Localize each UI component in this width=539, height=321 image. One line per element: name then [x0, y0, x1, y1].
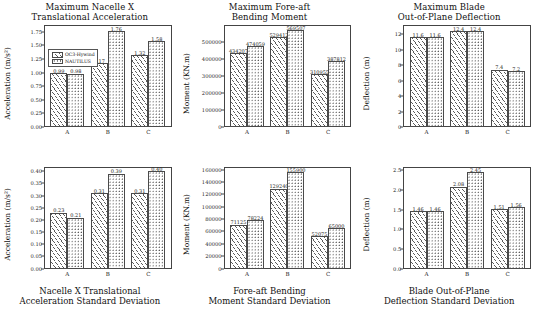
bar-value-label: 387812: [327, 56, 346, 62]
legend-label: OC3-Hywind: [65, 52, 95, 57]
bar: 0.31: [131, 193, 148, 268]
chart-title: Fore-aft BendingMoment Standard Deviatio…: [180, 286, 360, 306]
y-tick-label: 100000: [202, 204, 222, 210]
bar: 0.40: [148, 171, 165, 268]
x-tick-label: B: [450, 271, 484, 277]
chart-title-line: Bending Moment: [180, 12, 360, 22]
legend-label: NAUTILUS: [65, 59, 91, 64]
axes: 0.00.51.01.52.02.51.461.462.082.451.511.…: [373, 167, 531, 269]
bar-value-label: 11.6: [413, 32, 424, 38]
bar: 0.99: [50, 73, 67, 127]
chart-title: Nacelle X TranslationalAcceleration Stan…: [0, 286, 180, 306]
bar-value-label: 12.4: [470, 26, 481, 32]
chart-panel-top-left: Maximum Nacelle XTranslational Accelerat…: [0, 0, 180, 161]
chart-panel-bottom-left: Acceleration (m/s²)0.000.050.100.150.200…: [0, 161, 180, 321]
chart-panel-bottom-right: Deflection (m)0.00.51.01.52.02.51.461.46…: [359, 161, 539, 321]
x-tick-label: A: [230, 271, 264, 277]
bar-value-label: 1.32: [134, 50, 145, 56]
y-axis-ticks: 0100000200000300000400000500000: [194, 25, 224, 127]
x-tick-label: C: [131, 129, 165, 135]
bar-group: 11.611.6: [410, 25, 444, 127]
y-tick-label: 60000: [205, 228, 222, 234]
bar-value-label: 65000: [329, 223, 345, 229]
bar: 11.6: [410, 37, 427, 127]
y-axis-label: Acceleration (m/s²): [1, 165, 13, 285]
chart-panel-top-center: Maximum Fore-aftBending MomentMoment (KN…: [180, 0, 360, 161]
chart-title-line: Maximum Blade: [359, 2, 539, 12]
bar: 0.21: [67, 218, 84, 269]
y-tick-label: 300000: [202, 73, 222, 79]
bar-value-label: 0.40: [151, 166, 162, 172]
bar-group: 12.412.4: [450, 25, 484, 127]
bar-group: 310955387812: [311, 25, 345, 127]
bar-value-label: 0.23: [53, 207, 64, 213]
bar-value-label: 52075: [312, 231, 328, 237]
bar-groups: 0.230.210.310.390.310.40: [44, 167, 172, 269]
y-axis-label: Acceleration (m/s²): [1, 23, 13, 143]
bar-value-label: 7.2: [512, 66, 520, 72]
y-tick-label: 80000: [205, 216, 222, 222]
bar-value-label: 2.08: [453, 181, 464, 187]
bar: 1.17: [91, 63, 108, 127]
plot-area: Acceleration (m/s²)0.000.050.100.150.200…: [2, 165, 174, 285]
bar: 1.32: [131, 55, 148, 127]
bar: 7.2: [508, 71, 525, 127]
bar: 7.4: [491, 70, 508, 127]
bar: 155900: [287, 172, 304, 268]
bar-group: 0.230.21: [50, 167, 84, 269]
y-tick-label: 200000: [202, 90, 222, 96]
bar: 11.6: [427, 37, 444, 127]
chart-title: Maximum BladeOut-of-Plane Deflection: [359, 0, 539, 23]
bar-group: 0.310.40: [131, 167, 165, 269]
bar-value-label: 155900: [286, 167, 305, 173]
plot-area: Moment (KN.m)010000020000030000040000050…: [182, 23, 354, 143]
chart-title-line: Out-of-Plane Deflection: [359, 12, 539, 22]
bar-group: 0.310.39: [91, 167, 125, 269]
bar-value-label: 78224: [247, 215, 263, 221]
y-axis-label: Deflection (m): [360, 165, 372, 285]
axes: 0200004000060000800001000001200001400001…: [194, 167, 352, 269]
bar: 0.23: [50, 213, 67, 269]
plot-area: Moment (KN.m)020000400006000080000100000…: [182, 165, 354, 285]
chart-title-line: Maximum Fore-aft: [180, 2, 360, 12]
bar-group: 7.47.2: [491, 25, 525, 127]
x-axis-ticks: ABC: [224, 271, 352, 283]
y-tick-label: 140000: [202, 179, 222, 185]
chart-title: Blade Out-of-PlaneDeflection Standard De…: [359, 286, 539, 306]
bar: 0.31: [91, 193, 108, 268]
x-axis-ticks: ABC: [224, 129, 352, 141]
bar: 71125: [230, 225, 247, 269]
chart-legend: OC3-HywindNAUTILUS: [48, 49, 98, 67]
x-tick-label: C: [311, 129, 345, 135]
chart-panel-top-right: Maximum BladeOut-of-Plane DeflectionDefl…: [359, 0, 539, 161]
bar: 1.46: [427, 211, 444, 268]
y-axis-label-text: Acceleration (m/s²): [3, 188, 12, 261]
plot-area: Deflection (m)02468101211.611.612.412.47…: [361, 23, 533, 143]
bar: 387812: [328, 61, 345, 127]
bar-group: 434207474059: [230, 25, 264, 127]
bar-groups: 11.611.612.412.47.47.2: [403, 25, 531, 127]
chart-title-line: Blade Out-of-Plane: [359, 286, 539, 296]
plot-area: Acceleration (m/s²)0.000.250.500.751.001…: [2, 23, 174, 143]
bar: 12.4: [467, 31, 484, 127]
bar: 65000: [328, 228, 345, 268]
bar-group: 129240155900: [270, 167, 304, 269]
x-axis-ticks: ABC: [403, 129, 531, 141]
bar: 2.08: [450, 187, 467, 269]
y-axis-label-text: Deflection (m): [362, 197, 371, 251]
bar-value-label: 569507: [286, 25, 305, 31]
bar: 12.4: [450, 31, 467, 127]
bar: 569507: [287, 30, 304, 127]
bar-value-label: 7.4: [495, 64, 503, 70]
x-tick-label: C: [491, 271, 525, 277]
bar-value-label: 1.58: [151, 36, 162, 42]
bar-value-label: 0.99: [53, 68, 64, 74]
bar-groups: 1.461.462.082.451.511.56: [403, 167, 531, 269]
chart-title-line: Deflection Standard Deviation: [359, 296, 539, 306]
axes: 0.000.250.500.751.001.251.501.750.990.98…: [14, 25, 172, 127]
legend-swatch: [52, 52, 63, 58]
chart-title-line: Moment Standard Deviation: [180, 296, 360, 306]
bar-group: 529412569507: [270, 25, 304, 127]
y-axis-label: Moment (KN.m): [181, 165, 193, 285]
bar-value-label: 2.45: [470, 167, 481, 173]
